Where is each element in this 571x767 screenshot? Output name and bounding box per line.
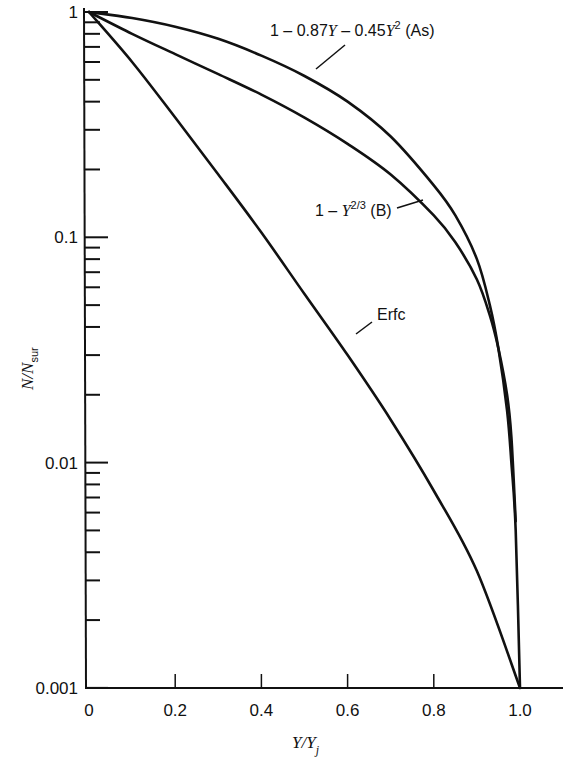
- y-tick-label: 0.1: [54, 228, 78, 247]
- x-tick-labels: 00.20.40.60.81.0: [84, 701, 532, 720]
- x-tick-label: 0.8: [422, 701, 446, 720]
- x-tick-label: 0.6: [336, 701, 360, 720]
- y-tick-labels: 0.0010.010.11: [35, 3, 78, 698]
- x-tick-label: 0.4: [250, 701, 274, 720]
- y-axis-title: N/Nsur: [18, 347, 40, 391]
- axes: [84, 8, 563, 689]
- y-ticks: [85, 12, 108, 688]
- chart: 0.0010.010.11 00.20.40.60.81.0 1 – 0.87Y…: [0, 0, 571, 767]
- y-axis: [84, 8, 86, 689]
- erfc-leader: [356, 322, 372, 334]
- b-leader: [397, 200, 423, 208]
- x-tick-label: 0.2: [163, 701, 187, 720]
- y-tick-label: 0.01: [45, 454, 78, 473]
- as-leader: [316, 45, 345, 69]
- as-curve: [89, 12, 520, 688]
- y-tick-label: 1: [69, 3, 78, 22]
- b-curve-label: 1 – Y2/3 (B): [315, 199, 392, 219]
- erfc-curve-label: Erfc: [377, 306, 405, 323]
- as-curve-label: 1 – 0.87Y – 0.45Y2 (As): [270, 19, 434, 39]
- x-tick-label: 0: [84, 701, 93, 720]
- x-ticks: [175, 674, 434, 688]
- y-tick-label: 0.001: [35, 679, 78, 698]
- erfc-curve: [89, 12, 520, 688]
- x-tick-label: 1.0: [508, 701, 532, 720]
- curves: [89, 12, 520, 688]
- x-axis-title: Y/Yj: [292, 733, 320, 757]
